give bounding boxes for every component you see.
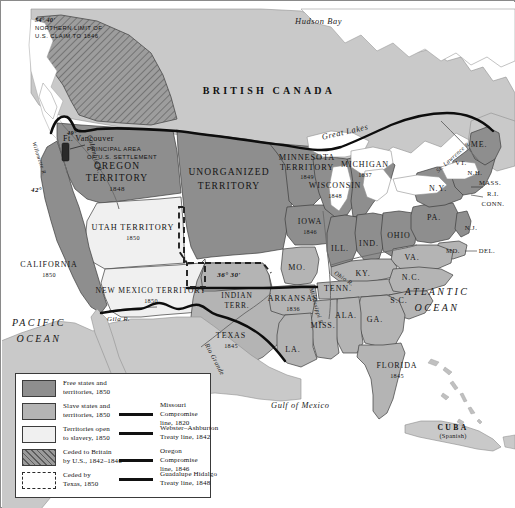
legend-swatch-open-to-slavery — [22, 426, 56, 443]
hispaniola-area — [503, 435, 515, 449]
legend-webster-line1: Webster–Ashburton — [160, 424, 218, 433]
missouri-area — [281, 247, 319, 285]
legend-item-slave-states: Slave states and territories, 1850 — [22, 402, 110, 420]
legend-item-ceded-to-britain: Ceded to Britain by U.S., 1842–1846 — [22, 448, 122, 466]
legend-open-line2: to slavery, 1850 — [63, 434, 110, 443]
indiana-area — [355, 213, 385, 261]
legend-ceded-britain-line1: Ceded to Britain — [63, 448, 122, 457]
arkansas-area — [269, 285, 317, 315]
legend-item-guadalupe-hidalgo: Guadalupe Hidalgo Treaty line, 1848 — [119, 470, 217, 488]
legend-free-states-line1: Free states and — [63, 379, 110, 388]
missouri-compromise-line — [187, 287, 317, 288]
utah-territory-area — [85, 197, 185, 269]
legend-item-free-states: Free states and territories, 1850 — [22, 379, 110, 397]
legend-swatch-ceded-by-texas — [22, 472, 56, 489]
legend-item-open-to-slavery: Territories open to slavery, 1850 — [22, 425, 110, 443]
legend-guadalupe-line2: Treaty line, 1848 — [160, 479, 217, 488]
georgia-area — [357, 295, 405, 347]
legend-item-webster-ashburton: Webster–Ashburton Treaty line, 1842 — [119, 424, 218, 442]
settlement-area-marker — [62, 143, 69, 161]
legend-ceded-texas-line1: Ceded by — [63, 471, 98, 480]
legend-line-missouri-compromise — [119, 413, 153, 416]
legend-line-webster-ashburton — [119, 432, 153, 435]
legend-oregon-line1: Oregon Compromise — [160, 447, 219, 465]
alabama-area — [335, 297, 363, 353]
legend-guadalupe-line1: Guadalupe Hidalgo — [160, 470, 217, 479]
mississippi-state-area — [311, 299, 339, 359]
legend-item-ceded-by-texas: Ceded by Texas, 1850 — [22, 471, 98, 489]
legend-swatch-free-states — [22, 380, 56, 397]
legend-open-line1: Territories open — [63, 425, 110, 434]
legend-swatch-ceded-to-britain — [22, 449, 56, 466]
legend-ceded-britain-line2: by U.S., 1842–1846 — [63, 457, 122, 466]
legend-slave-states-line2: territories, 1850 — [63, 411, 110, 420]
map-legend-lines: Missouri Compromise line, 1820 Webster–A… — [119, 373, 219, 498]
historical-map: BRITISH CANADA MEXICO CUBA (Spanish) PAC… — [0, 0, 515, 508]
legend-missouri-line1: Missouri Compromise — [160, 401, 219, 419]
legend-free-states-line2: territories, 1850 — [63, 388, 110, 397]
legend-line-oregon-compromise — [119, 459, 153, 462]
legend-line-guadalupe-hidalgo — [119, 478, 153, 481]
legend-swatch-slave-states — [22, 403, 56, 420]
legend-webster-line2: Treaty line, 1842 — [160, 433, 218, 442]
legend-ceded-texas-line2: Texas, 1850 — [63, 480, 98, 489]
legend-slave-states-line1: Slave states and — [63, 402, 110, 411]
